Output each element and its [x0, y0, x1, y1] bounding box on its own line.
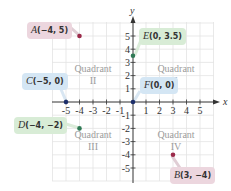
- x-axis-label: x: [222, 96, 228, 107]
- point-d: [77, 126, 82, 131]
- quadrant-iii-numeral: III: [88, 141, 98, 152]
- x-axis-arrow-icon: [213, 100, 220, 105]
- point-e-coords: (0, 3.5): [149, 32, 182, 41]
- point-a-label: A(−4, 5): [27, 22, 72, 39]
- svg-text:4: 4: [184, 105, 189, 116]
- svg-text:-4: -4: [122, 149, 130, 160]
- quadrant-ii-numeral: II: [90, 75, 97, 86]
- svg-text:2: 2: [125, 70, 130, 81]
- point-c: [64, 100, 69, 105]
- svg-text:2: 2: [157, 105, 162, 116]
- point-d-coords: (−4, −2): [25, 121, 63, 130]
- svg-text:-1: -1: [122, 110, 130, 121]
- quadrant-i-label: Quadrant: [157, 63, 194, 74]
- point-c-label: C(−5, 0): [22, 73, 68, 90]
- svg-text:-4: -4: [75, 105, 83, 116]
- svg-text:-5: -5: [122, 163, 130, 174]
- quadrant-iv-label: Quadrant: [157, 129, 194, 140]
- y-axis-arrow-icon: [131, 16, 136, 23]
- point-f-coords: (0, 0): [150, 81, 174, 90]
- point-e: [131, 54, 136, 59]
- svg-text:1: 1: [125, 83, 130, 94]
- svg-text:-5: -5: [62, 105, 70, 116]
- point-f: [131, 100, 136, 105]
- svg-text:4: 4: [125, 44, 130, 55]
- svg-text:-3: -3: [89, 105, 97, 116]
- svg-text:1: 1: [144, 105, 149, 116]
- svg-text:3: 3: [171, 105, 176, 116]
- point-a-coords: (−4, 5): [37, 26, 68, 35]
- quadrant-iii-label: Quadrant: [74, 129, 111, 140]
- point-a: [77, 34, 82, 39]
- point-b: [171, 153, 176, 158]
- x-tick-labels: -5 -4 -3 -2 -1 1 2 3 4 5: [62, 105, 203, 116]
- svg-text:5: 5: [198, 105, 203, 116]
- point-c-coords: (−5, 0): [33, 77, 64, 86]
- svg-text:-3: -3: [122, 136, 130, 147]
- quadrant-iv-numeral: IV: [171, 141, 182, 152]
- point-d-label: D(−4, −2): [14, 117, 67, 134]
- point-e-label: E(0, 3.5): [139, 28, 186, 45]
- y-axis-label: y: [129, 5, 135, 16]
- svg-text:3: 3: [125, 57, 130, 68]
- point-f-label: F(0, 0): [140, 77, 178, 94]
- point-b-label: B(3, −4): [170, 167, 215, 184]
- point-b-coords: (3, −4): [180, 171, 211, 180]
- quadrant-ii-label: Quadrant: [74, 63, 111, 74]
- svg-text:-2: -2: [102, 105, 110, 116]
- point-c-name: C: [26, 75, 33, 86]
- svg-text:-2: -2: [122, 123, 130, 134]
- svg-text:5: 5: [125, 31, 130, 42]
